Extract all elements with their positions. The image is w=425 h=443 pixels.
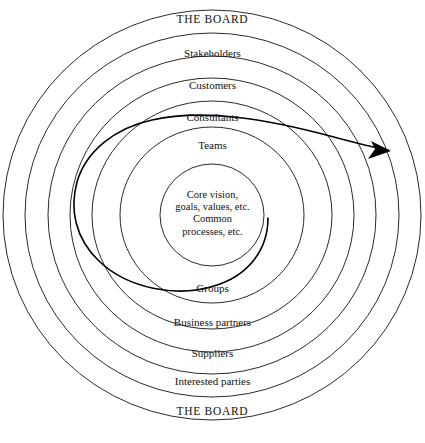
core-text-line-2: goals, values, etc. <box>0 201 425 213</box>
ring-label-interested-parties: Interested parties <box>0 375 425 387</box>
core-text-block: Core vision, goals, values, etc. Common … <box>0 189 425 238</box>
ring-label-the-board-bottom: THE BOARD <box>0 405 425 417</box>
ring-label-suppliers: Suppliers <box>0 347 425 359</box>
ring-label-consultants: Consultants <box>0 111 425 123</box>
core-text-line-1: Core vision, <box>0 189 425 201</box>
ring-label-customers: Customers <box>0 79 425 91</box>
ring-label-the-board-top: THE BOARD <box>0 13 425 25</box>
core-text-line-3: Common <box>0 213 425 225</box>
ring-label-teams: Teams <box>0 139 425 151</box>
concentric-circles-diagram: THE BOARD Stakeholders Customers Consult… <box>0 0 425 443</box>
core-text-line-4: processes, etc. <box>0 226 425 238</box>
ring-label-business-partners: Business partners <box>0 316 425 328</box>
ring-label-stakeholders: Stakeholders <box>0 47 425 59</box>
ring-label-groups: Groups <box>0 282 425 294</box>
